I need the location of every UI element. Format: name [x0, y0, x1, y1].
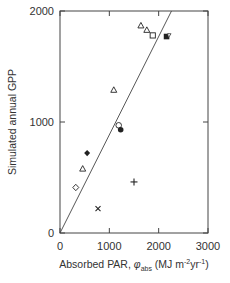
plot-border [60, 11, 208, 233]
regression-line [60, 11, 171, 233]
data-point-filled-circle [118, 127, 124, 133]
x-tick-label: 3000 [196, 240, 220, 252]
triangle-marker [80, 166, 86, 172]
x-tick-label: 1000 [97, 240, 121, 252]
x-tick-label: 2000 [146, 240, 170, 252]
y-tick-label: 1000 [30, 116, 54, 128]
data-point-open-triangle [144, 27, 150, 32]
axis-ticks [60, 11, 208, 233]
data-point-open-triangle [80, 166, 86, 172]
triangle-marker [138, 22, 144, 28]
data-point-cross [95, 206, 100, 211]
axis-tick-labels: 0100020003000010002000 [30, 5, 221, 252]
x-axis-label: Absorbed PAR, φabs (MJ m-2yr-1) [59, 258, 208, 272]
data-point-plus [131, 178, 138, 185]
data-point-open-triangle [111, 87, 117, 93]
y-tick-label: 2000 [30, 5, 54, 17]
data-point-open-diamond [73, 184, 79, 190]
filled-diamond-marker [84, 150, 90, 156]
y-tick-label: 0 [48, 227, 54, 239]
data-point-open-square [150, 33, 155, 38]
triangle-marker [144, 27, 150, 32]
data-point-filled-square [164, 34, 171, 40]
filled-circle-marker [118, 127, 124, 133]
triangle-marker [111, 87, 117, 93]
data-point-filled-diamond [84, 150, 90, 156]
fit-line [60, 11, 171, 233]
y-axis-label: Simulated annual GPP [6, 69, 18, 175]
scatter-chart: 0100020003000010002000 Simulated annual … [0, 0, 230, 283]
diamond-marker [73, 184, 79, 190]
data-point-open-triangle [138, 22, 144, 28]
square-marker [150, 33, 155, 38]
inverted-triangle-marker [168, 34, 172, 38]
data-points [73, 22, 171, 211]
plot-frame [60, 11, 208, 233]
x-tick-label: 0 [57, 240, 63, 252]
